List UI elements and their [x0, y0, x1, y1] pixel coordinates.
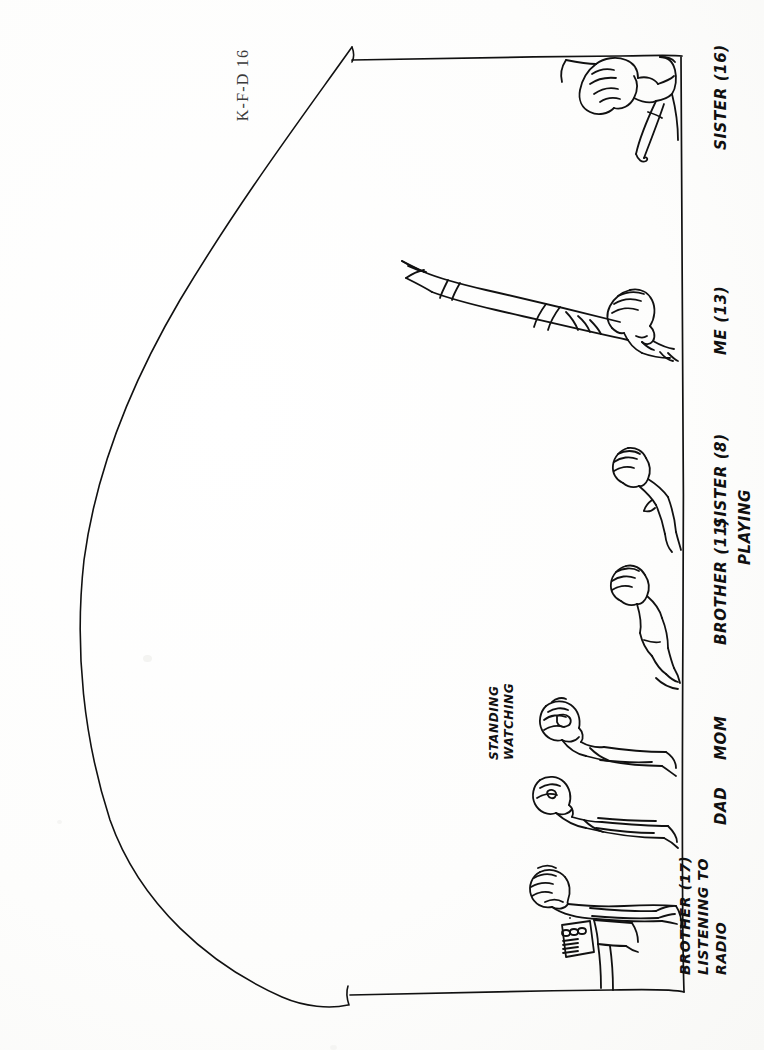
- sister-8-figure: [613, 448, 681, 552]
- label-standing-watching: STANDING WATCHING: [487, 683, 517, 760]
- label-dad: DAD: [712, 787, 730, 825]
- label-playing: PLAYING: [736, 489, 754, 565]
- label-me-13: ME (13): [712, 286, 730, 355]
- brother-11-figure: [611, 565, 680, 689]
- label-sister-8-text: SISTER (8): [712, 433, 730, 528]
- label-mom: MOM: [712, 716, 730, 760]
- label-me-13-text: ME (13): [712, 286, 730, 355]
- radio-on-stand: [562, 918, 638, 990]
- label-radio-text: RADIO: [712, 856, 730, 975]
- label-playing-text: PLAYING: [736, 489, 754, 565]
- label-brother-17: BROTHER (17) LISTENING TO RADIO: [676, 856, 730, 975]
- dad-figure: [533, 777, 678, 848]
- kfd-drawing: [0, 0, 764, 1050]
- room-outline: [80, 47, 353, 1007]
- floor-baseline: [350, 55, 684, 995]
- label-sister-16-text: SISTER (16): [712, 44, 730, 150]
- sister-16-figure: [561, 57, 678, 162]
- label-sister-16: SISTER (16): [712, 44, 730, 150]
- scanned-page: K-F-D 16 SISTER (16) ME (13) SISTER (8) …: [0, 0, 764, 1050]
- label-dad-text: DAD: [712, 787, 730, 825]
- label-mom-text: MOM: [712, 716, 730, 760]
- label-watching-text: WATCHING: [502, 683, 517, 760]
- label-sister-8: SISTER (8): [712, 433, 730, 528]
- label-brother-17-text: BROTHER (17): [676, 856, 694, 975]
- mom-figure: [540, 698, 676, 776]
- label-standing-text: STANDING: [487, 683, 502, 760]
- label-listening-to-text: LISTENING TO: [694, 856, 712, 975]
- label-brother-11-text: BROTHER (11): [712, 518, 730, 645]
- catalog-label: K-F-D 16: [228, 5, 258, 165]
- me-13-figure: [402, 261, 678, 361]
- label-brother-11: BROTHER (11): [712, 518, 730, 645]
- brother-17-figure: [530, 866, 681, 928]
